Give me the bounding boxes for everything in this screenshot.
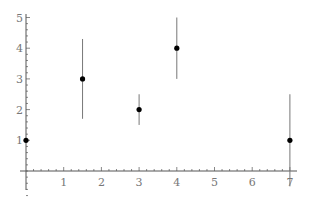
x-tick-label: 1 <box>60 176 67 189</box>
y-tick-label: 2 <box>16 104 23 117</box>
data-point <box>80 76 85 81</box>
x-tick-label: 4 <box>173 176 180 189</box>
tick-labels: 123456712345 <box>16 12 293 190</box>
axis-ticks <box>26 18 290 196</box>
data-point <box>23 138 28 143</box>
y-tick-label: 5 <box>16 12 23 25</box>
data-point <box>137 107 142 112</box>
y-tick-label: 1 <box>16 134 23 147</box>
data-point <box>287 138 292 143</box>
y-tick-label: 4 <box>16 42 23 55</box>
x-tick-label: 3 <box>136 176 143 189</box>
data-points <box>23 46 292 143</box>
data-point <box>174 46 179 51</box>
error-bar-chart: 123456712345 <box>0 0 321 199</box>
y-tick-label: 3 <box>16 73 23 86</box>
axes <box>20 14 297 190</box>
x-tick-label: 5 <box>211 176 218 189</box>
error-bars <box>83 18 290 187</box>
x-tick-label: 6 <box>249 176 256 189</box>
x-tick-label: 2 <box>98 176 105 189</box>
